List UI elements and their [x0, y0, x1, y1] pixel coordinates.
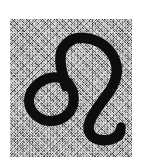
leo-glyph-svg: [0, 0, 141, 163]
leo-tail-tick-path: [119, 127, 121, 136]
image-canvas: [0, 0, 141, 163]
leo-zodiac-glyph: [0, 0, 141, 163]
leo-arch-and-descender-path: [60, 38, 120, 140]
